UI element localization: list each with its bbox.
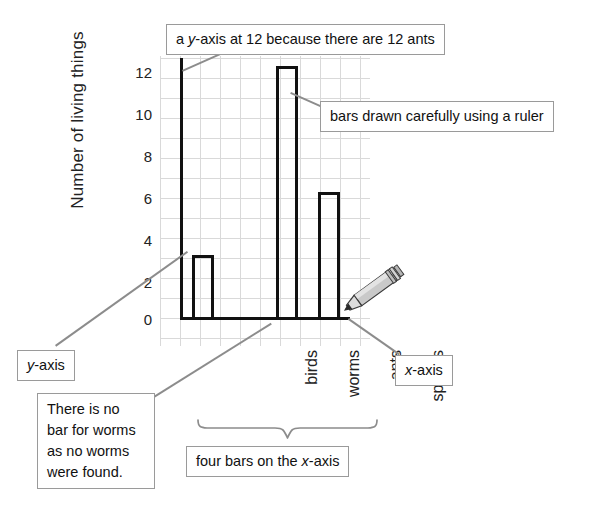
callout-text-italic: x — [302, 453, 309, 469]
callout-y-axis-at-12: a y-axis at 12 because there are 12 ants — [166, 24, 445, 55]
callout-text-pre: a — [176, 31, 188, 47]
callout-text-post: -axis — [309, 453, 340, 469]
callout-four-bars-on-x-axis: four bars on the x-axis — [186, 446, 349, 477]
callout-line-1: There is no — [47, 399, 145, 420]
callout-line-2: bar for worms — [47, 420, 145, 441]
bar-spiders — [318, 192, 340, 318]
callout-text: bars drawn carefully using a ruler — [330, 108, 544, 124]
callout-text-post: -axis at 12 because there are 12 ants — [195, 31, 434, 47]
callout-y-axis: y-axis — [17, 350, 75, 381]
callout-text-post: -axis — [412, 362, 443, 378]
callout-text-pre: four bars on the — [196, 453, 302, 469]
callout-line-3: as no worms — [47, 441, 145, 462]
pencil-icon — [338, 252, 414, 324]
callout-line-4: were found. — [47, 462, 145, 483]
callout-x-axis: x-axis — [395, 355, 453, 386]
curly-brace-icon — [195, 418, 380, 440]
callout-text-post: -axis — [34, 357, 65, 373]
callout-bars-drawn-with-ruler: bars drawn carefully using a ruler — [320, 101, 554, 132]
bar-birds — [192, 255, 214, 318]
bar-ants — [276, 66, 298, 318]
callout-no-bar-for-worms: There is no bar for worms as no worms we… — [37, 393, 155, 489]
